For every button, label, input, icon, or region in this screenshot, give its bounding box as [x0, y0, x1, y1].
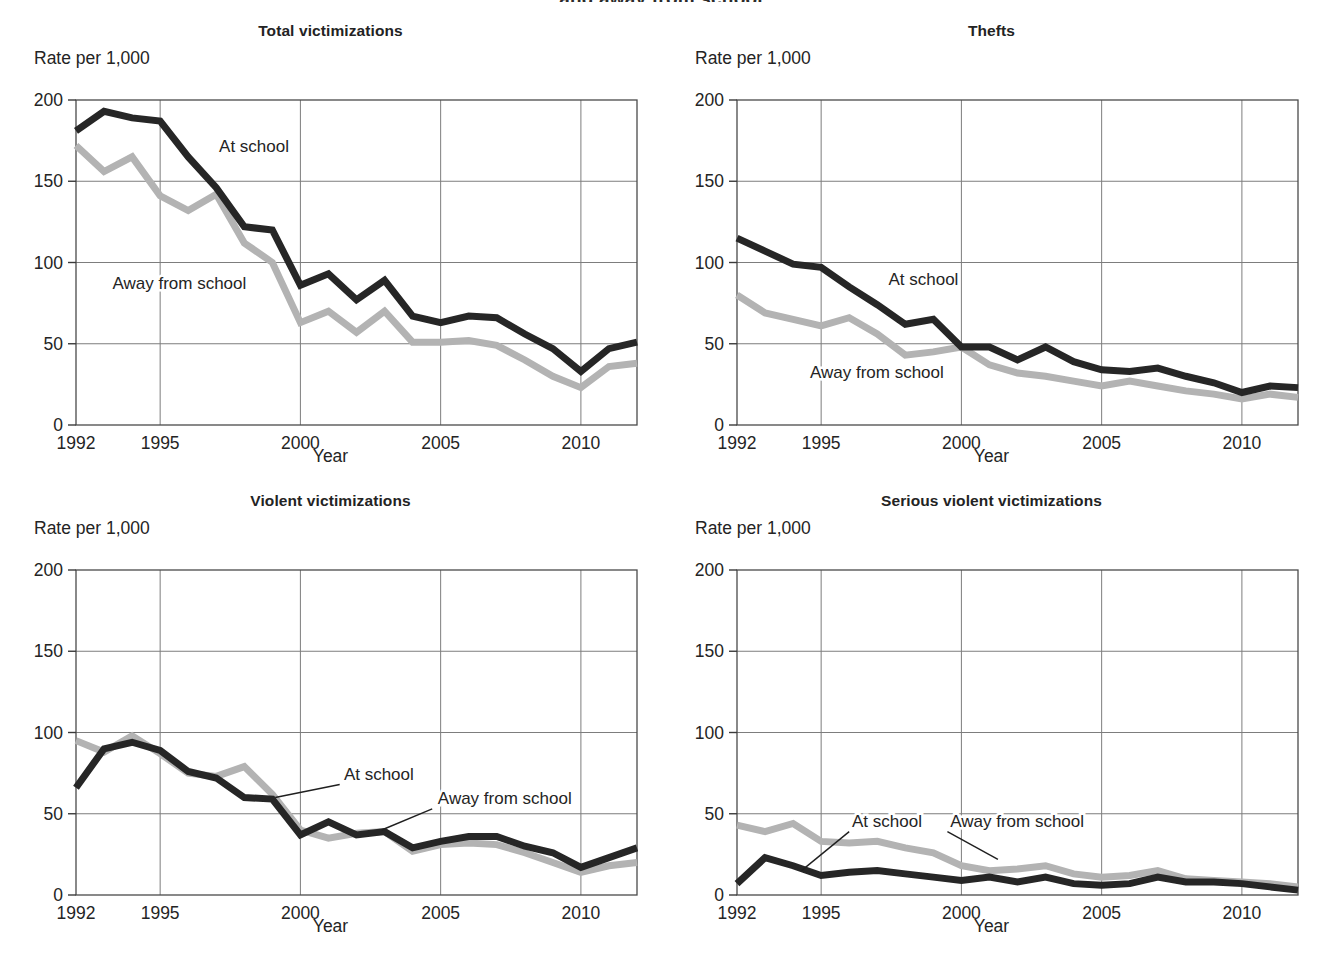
x-axis-label: Year	[0, 916, 661, 937]
x-axis-label: Year	[0, 446, 661, 467]
y-tick-label: 100	[695, 723, 724, 743]
annotation-leader-line	[382, 809, 433, 830]
y-tick-label: 50	[44, 804, 64, 824]
y-tick-label: 200	[34, 90, 63, 110]
chart-panel-total-victimizations: Total victimizations Rate per 1,000 0501…	[0, 22, 661, 492]
chart-svg: 05010015020019921995200020052010At schoo…	[0, 492, 661, 912]
y-tick-label: 0	[714, 885, 724, 905]
series-annotation-label: At school	[344, 765, 414, 784]
figure-heading-clipped: and away from school	[0, 0, 1322, 2]
y-tick-label: 0	[53, 415, 63, 435]
y-tick-label: 50	[705, 334, 725, 354]
y-tick-label: 150	[34, 171, 63, 191]
series-annotation-label: At school	[852, 812, 922, 831]
series-annotation-label: Away from school	[950, 812, 1084, 831]
chart-panel-violent-victimizations: Violent victimizations Rate per 1,000 05…	[0, 492, 661, 962]
series-annotation-label: At school	[219, 137, 289, 156]
y-tick-label: 200	[34, 560, 63, 580]
y-tick-label: 100	[34, 723, 63, 743]
x-axis-label: Year	[661, 446, 1322, 467]
y-tick-label: 150	[695, 171, 724, 191]
chart-panel-thefts: Thefts Rate per 1,000 050100150200199219…	[661, 22, 1322, 492]
annotation-leader-line	[275, 785, 340, 798]
y-tick-label: 0	[53, 885, 63, 905]
y-tick-label: 200	[695, 90, 724, 110]
series-annotation-label: Away from school	[112, 274, 246, 293]
y-tick-label: 0	[714, 415, 724, 435]
chart-panel-serious-violent-victimizations: Serious violent victimizations Rate per …	[661, 492, 1322, 962]
chart-svg: 05010015020019921995200020052010At schoo…	[0, 22, 661, 442]
annotation-leader-line	[947, 832, 998, 860]
chart-svg: 05010015020019921995200020052010At schoo…	[661, 492, 1322, 912]
chart-svg: 05010015020019921995200020052010At schoo…	[661, 22, 1322, 442]
series-annotation-label: Away from school	[810, 363, 944, 382]
y-tick-label: 50	[705, 804, 725, 824]
y-tick-label: 100	[34, 253, 63, 273]
y-tick-label: 150	[34, 641, 63, 661]
x-axis-label: Year	[661, 916, 1322, 937]
y-tick-label: 200	[695, 560, 724, 580]
series-annotation-label: Away from school	[438, 789, 572, 808]
series-annotation-label: At school	[888, 270, 958, 289]
y-tick-label: 50	[44, 334, 64, 354]
y-tick-label: 150	[695, 641, 724, 661]
y-tick-label: 100	[695, 253, 724, 273]
